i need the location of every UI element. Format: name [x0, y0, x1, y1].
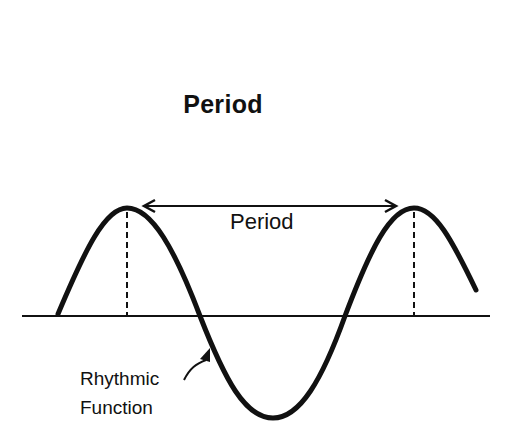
curve-pointer-arrow [184, 348, 210, 380]
period-label: Period [230, 209, 294, 235]
rhythmic-function-label-line2: Function [80, 393, 159, 422]
rhythmic-function-label-line1: Rhythmic [80, 364, 159, 393]
rhythmic-function-label: Rhythmic Function [80, 364, 159, 422]
